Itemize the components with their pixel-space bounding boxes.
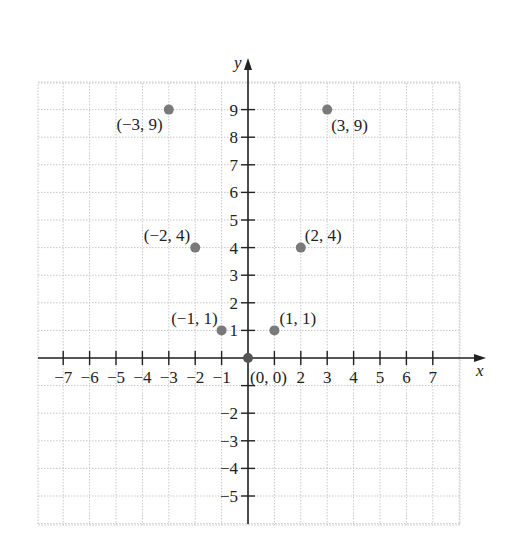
x-tick-label: −3 <box>160 368 178 387</box>
y-tick-label: 1 <box>230 321 239 340</box>
y-tick-label: 6 <box>230 183 239 202</box>
grid-border <box>38 83 460 525</box>
point-label: (−1, 1) <box>171 309 217 328</box>
y-tick-label: −4 <box>220 459 239 478</box>
data-point <box>190 243 200 253</box>
y-tick-label: 7 <box>230 156 239 175</box>
x-tick-label: 3 <box>323 368 332 387</box>
point-label: (−3, 9) <box>116 115 162 134</box>
grid-lines <box>38 82 460 525</box>
y-tick-label: −5 <box>220 487 238 506</box>
x-tick-label: −4 <box>133 368 152 387</box>
y-tick-label: 5 <box>230 211 239 230</box>
x-tick-label: 6 <box>402 368 411 387</box>
point-label: (2, 4) <box>305 226 342 245</box>
data-point <box>322 105 332 115</box>
data-point <box>269 325 279 335</box>
data-point <box>243 353 253 363</box>
point-label: (3, 9) <box>331 116 368 135</box>
point-label: (0, 0) <box>250 368 287 387</box>
x-tick-label: −5 <box>107 368 125 387</box>
point-label: (−2, 4) <box>144 226 190 245</box>
x-tick-label: −2 <box>186 368 204 387</box>
y-tick-label: 2 <box>230 294 239 313</box>
x-tick-label: 7 <box>429 368 438 387</box>
y-tick-label: 4 <box>230 239 239 258</box>
data-point <box>164 105 174 115</box>
y-axis-label: y <box>232 53 242 72</box>
coordinate-plane: −7−6−5−4−3−2−1234567−5−4−3−2123456789 (−… <box>0 0 514 558</box>
y-tick-label: −2 <box>220 404 238 423</box>
y-tick-label: 3 <box>230 266 239 285</box>
x-tick-label: 4 <box>349 368 358 387</box>
x-axis-label: x <box>475 361 484 380</box>
y-tick-label: 8 <box>230 128 239 147</box>
y-tick-label: 9 <box>230 101 239 120</box>
point-labels: (−3, 9)(−2, 4)(−1, 1)(0, 0)(1, 1)(2, 4)(… <box>116 115 368 387</box>
data-point <box>217 325 227 335</box>
point-label: (1, 1) <box>279 309 316 328</box>
x-tick-label: −6 <box>81 368 99 387</box>
y-axis-arrow-icon <box>244 58 252 70</box>
x-tick-label: −7 <box>54 368 73 387</box>
x-tick-label: −1 <box>213 368 231 387</box>
y-tick-label: −3 <box>220 432 238 451</box>
x-tick-label: 5 <box>376 368 385 387</box>
x-tick-label: 2 <box>297 368 306 387</box>
axes <box>38 58 486 524</box>
